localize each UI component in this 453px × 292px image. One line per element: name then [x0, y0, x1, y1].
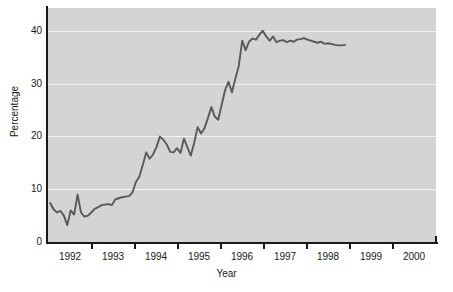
x-tick-label-2000: 2000 — [391, 252, 437, 262]
y-axis-line — [46, 6, 48, 244]
x-tick-6 — [306, 243, 308, 249]
y-tick-label-30-text: 30 — [31, 78, 42, 89]
x-tick-label-1995-text: 1995 — [188, 251, 210, 262]
x-tick-label-1998: 1998 — [305, 252, 351, 262]
x-tick-label-1999-text: 1999 — [360, 251, 382, 262]
data-line-percentage — [48, 8, 436, 242]
x-axis-line — [46, 242, 438, 244]
x-tick-label-1997-text: 1997 — [274, 251, 296, 262]
y-tick-label-0-text: 0 — [36, 236, 42, 247]
x-tick-3 — [177, 243, 179, 249]
y-tick-label-40: 40 — [0, 26, 42, 36]
y-tick-label-30: 30 — [0, 79, 42, 89]
x-tick-label-1996-text: 1996 — [231, 251, 253, 262]
y-tick-label-20: 20 — [0, 131, 42, 141]
x-tick-label-1994-text: 1994 — [145, 251, 167, 262]
x-tick-label-1998-text: 1998 — [317, 251, 339, 262]
y-tick-label-0: 0 — [0, 237, 42, 247]
y-tick-label-10-text: 10 — [31, 183, 42, 194]
y-tick-label-20-text: 20 — [31, 130, 42, 141]
x-tick-label-1996: 1996 — [219, 252, 265, 262]
chart-figure: 40 30 20 10 0 1992 1993 1994 1995 1996 1… — [0, 0, 453, 292]
x-tick-7 — [349, 243, 351, 249]
x-tick-label-1993: 1993 — [90, 252, 136, 262]
y-axis-title: Percentage — [9, 77, 20, 147]
x-tick-label-1999: 1999 — [348, 252, 394, 262]
x-tick-label-1994: 1994 — [133, 252, 179, 262]
x-tick-label-1992-text: 1992 — [59, 251, 81, 262]
x-tick-label-2000-text: 2000 — [403, 251, 425, 262]
x-tick-label-1997: 1997 — [262, 252, 308, 262]
x-tick-label-1993-text: 1993 — [102, 251, 124, 262]
x-tick-2 — [134, 243, 136, 249]
y-tick-label-10: 10 — [0, 184, 42, 194]
x-tick-label-1992: 1992 — [47, 252, 93, 262]
x-tick-5 — [263, 243, 265, 249]
y-tick-label-40-text: 40 — [31, 25, 42, 36]
x-tick-4 — [220, 243, 222, 249]
x-tick-label-1995: 1995 — [176, 252, 222, 262]
x-tick-8 — [392, 243, 394, 249]
x-axis-right-cap — [435, 236, 437, 244]
x-axis-title: Year — [0, 268, 453, 279]
x-tick-1 — [91, 243, 93, 249]
